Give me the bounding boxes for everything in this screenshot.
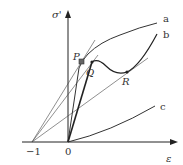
point-q-marker (90, 60, 93, 63)
x-tick-zero: 0 (65, 147, 71, 157)
curve-a-label: a (163, 14, 169, 24)
diagram-canvas: σ' ε −1 0 a b c P Q R (0, 0, 183, 165)
curve-b-label: b (163, 30, 169, 40)
y-axis-label: σ' (52, 10, 62, 20)
point-q-label: Q (86, 68, 94, 78)
point-r-marker (125, 70, 128, 73)
x-axis-label: ε (166, 154, 171, 164)
curve-b (92, 34, 157, 73)
point-p-label: P (73, 52, 80, 62)
diagram-svg (0, 0, 183, 165)
ray-to-p (32, 40, 95, 142)
curve-c-label: c (160, 102, 166, 112)
x-tick-minus-one: −1 (26, 147, 41, 157)
point-r-label: R (122, 77, 130, 87)
curve-c (68, 106, 155, 142)
curve-a (68, 23, 157, 142)
